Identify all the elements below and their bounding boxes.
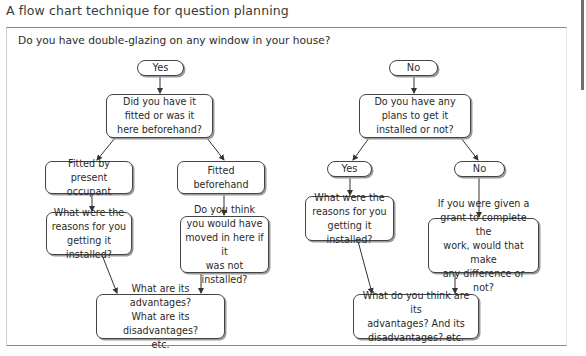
node-plans-yes: Yes (327, 161, 372, 177)
node-reasons-installed-right: What were the reasons for you getting it… (305, 196, 394, 241)
node-fitted-by-occupant: Fitted by present occupant (45, 161, 133, 194)
node-no: No (389, 60, 438, 76)
node-plans-to-install: Do you have any plans to get it installe… (359, 94, 471, 138)
node-plans-no: No (454, 161, 505, 177)
node-advantages-left: What are its advantages? What are its di… (96, 294, 225, 339)
node-fitted-or-before: Did you have it fitted or was it here be… (106, 94, 213, 138)
node-moved-in-question: Do you think you would have moved in her… (180, 216, 269, 273)
node-grant-question: If you were given a grant to complete th… (428, 218, 539, 273)
node-advantages-right: What do you think are its advantages? An… (353, 294, 479, 339)
node-yes: Yes (137, 60, 184, 76)
node-fitted-beforehand: Fitted beforehand (177, 161, 265, 194)
node-reasons-installed-left: What were the reasons for you getting it… (46, 212, 132, 255)
